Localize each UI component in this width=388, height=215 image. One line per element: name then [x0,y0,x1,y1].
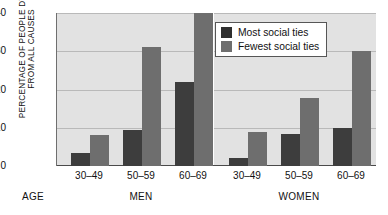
legend-swatch-fewest-icon [221,41,232,52]
bar-chart-figure: PERCENTAGE OF PEOPLE DYING FROM ALL CAUS… [0,0,388,215]
group-label-men: MEN [129,191,152,202]
legend-item-fewest-social-ties: Fewest social ties [221,41,319,52]
bar-women-60-69-most [333,128,352,166]
legend-label-fewest: Fewest social ties [238,41,319,52]
bar-women-30-49-fewest [248,132,267,166]
y-axis-title-line-2: FROM ALL CAUSES [27,9,36,88]
y-tick-0: 0 [0,160,6,171]
y-tick-30: 30 [0,45,6,56]
chart-legend: Most social ties Fewest social ties [215,22,327,57]
x-tick-men-60-69: 60–69 [179,170,207,181]
x-tick-men-50-59: 50–59 [127,170,155,181]
group-separator-line [213,13,214,166]
bar-men-30-49-most [71,153,90,166]
y-tick-20: 20 [0,84,6,95]
x-tick-women-30-49: 30–49 [233,170,261,181]
bar-women-50-59-fewest [300,98,319,166]
gridline-10 [57,128,376,129]
gridline-20 [57,90,376,91]
bar-men-60-69-most [175,82,194,166]
bar-men-50-59-most [123,130,142,166]
legend-swatch-most-icon [221,27,232,38]
bar-men-50-59-fewest [142,47,161,166]
plot-area: Most social ties Fewest social ties [56,13,376,166]
y-axis-title: PERCENTAGE OF PEOPLE DYING FROM ALL CAUS… [10,0,44,134]
bar-men-30-49-fewest [90,135,109,166]
y-axis-title-line-1: PERCENTAGE OF PEOPLE DYING [18,0,27,118]
x-tick-women-50-59: 50–59 [285,170,313,181]
age-axis-caption: AGE [22,191,44,202]
y-tick-10: 10 [0,122,6,133]
legend-item-most-social-ties: Most social ties [221,27,319,38]
y-tick-40: 40 [0,7,6,18]
legend-label-most: Most social ties [238,27,308,38]
bar-women-30-49-most [229,158,248,166]
bar-women-60-69-fewest [352,51,371,166]
bar-men-60-69-fewest [194,13,213,166]
gridline-40 [57,13,376,14]
bar-women-50-59-most [281,134,300,167]
x-tick-women-60-69: 60–69 [337,170,365,181]
x-tick-men-30-49: 30–49 [75,170,103,181]
group-label-women: WOMEN [279,191,320,202]
